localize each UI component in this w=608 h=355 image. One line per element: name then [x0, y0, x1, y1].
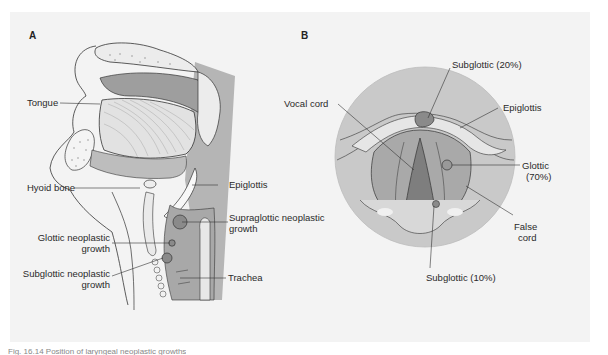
- label-tongue: Tongue: [27, 97, 58, 108]
- figure-caption: Fig. 16.14 Position of laryngeal neoplas…: [8, 347, 186, 355]
- thyroid-cartilage: [143, 192, 156, 256]
- esophagus: [200, 218, 210, 300]
- glottic-70-tumor: [442, 160, 452, 170]
- label-glottic-line1: Glottic neoplastic: [38, 232, 110, 243]
- label-glottic-70: Glottic (70%): [522, 160, 551, 182]
- label-glottic-70-line1: Glottic: [522, 160, 549, 171]
- hyoid-bone: [144, 180, 156, 188]
- laryngoscopic-view-illustration: [335, 67, 515, 247]
- tongue-body: [99, 99, 196, 159]
- label-trachea: Trachea: [228, 272, 263, 283]
- label-supraglottic-growth: Supraglottic neoplastic growth: [229, 212, 325, 234]
- label-glottic-70-line2: (70%): [522, 171, 551, 182]
- anatomy-diagram: [0, 0, 608, 355]
- subglottic-tumor: [162, 253, 172, 263]
- label-supraglottic-line1: Supraglottic neoplastic: [229, 212, 325, 223]
- label-glottic-line2: growth: [81, 243, 110, 254]
- label-hyoid-bone: Hyoid bone: [27, 182, 75, 193]
- label-false-cord: False cord: [514, 221, 537, 243]
- neck-anterior-line: [112, 192, 134, 310]
- label-subglottic-10: Subglottic (10%): [426, 272, 496, 283]
- subglottic-20-tumor: [415, 112, 434, 127]
- label-subglottic-line2: growth: [81, 279, 110, 290]
- label-subglottic-growth: Subglottic neoplastic growth: [16, 268, 110, 290]
- label-vocal-cord: Vocal cord: [284, 98, 328, 109]
- palate-bone: [95, 43, 198, 72]
- label-epiglottis-a: Epiglottis: [229, 179, 268, 190]
- label-false-cord-line2: cord: [514, 232, 536, 243]
- panel-letter-a: A: [29, 30, 36, 41]
- panel-letter-b: B: [301, 30, 308, 41]
- subglottic-10-tumor: [433, 201, 440, 208]
- label-subglottic-20: Subglottic (20%): [452, 59, 522, 70]
- label-false-cord-line1: False: [514, 221, 537, 232]
- label-glottic-growth: Glottic neoplastic growth: [30, 232, 110, 254]
- label-epiglottis-b: Epiglottis: [503, 102, 542, 113]
- label-supraglottic-line2: growth: [229, 223, 258, 234]
- tracheal-rings: [152, 259, 166, 297]
- label-subglottic-line1: Subglottic neoplastic: [23, 268, 110, 279]
